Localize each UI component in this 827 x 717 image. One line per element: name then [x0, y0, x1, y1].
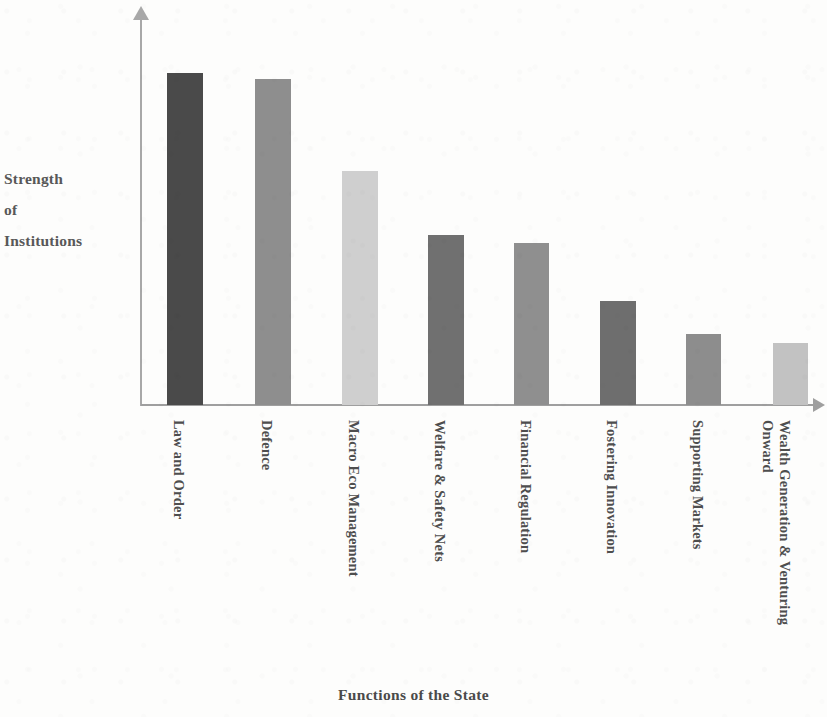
- y-axis-title-line-1: Strength: [4, 163, 129, 194]
- bar: [342, 171, 378, 405]
- category-label-line: Financial Regulation: [517, 420, 534, 553]
- bar: [600, 301, 636, 405]
- bar: [167, 73, 203, 405]
- category-label-line: Macro Eco Management: [345, 420, 362, 577]
- y-axis-title: Strength of Institutions: [4, 163, 129, 256]
- category-label: Supporting Markets: [689, 420, 706, 550]
- bar: [773, 343, 808, 405]
- category-label-line: Onward: [759, 420, 776, 625]
- y-axis-title-line-3: Institutions: [4, 225, 129, 256]
- category-label-line: Fostering Innovation: [603, 420, 620, 554]
- category-label: Law and Order: [170, 420, 187, 519]
- x-axis-arrow-icon: [813, 398, 825, 412]
- category-label: Financial Regulation: [517, 420, 534, 553]
- category-label: Defence: [258, 420, 275, 471]
- y-axis-line: [140, 18, 142, 406]
- y-axis-arrow-icon: [133, 6, 149, 20]
- category-label: Macro Eco Management: [345, 420, 362, 577]
- category-label-line: Defence: [258, 420, 275, 471]
- category-label-line: Welfare & Safety Nets: [431, 420, 448, 562]
- bar: [686, 334, 721, 405]
- category-label: Wealth Generation & VenturingOnward: [759, 420, 793, 625]
- bar: [428, 235, 464, 405]
- x-axis-title: Functions of the State: [0, 686, 827, 704]
- y-axis-title-line-2: of: [4, 194, 129, 225]
- category-label-line: Supporting Markets: [689, 420, 706, 550]
- category-label: Fostering Innovation: [603, 420, 620, 554]
- bar-chart: Strength of Institutions Law and OrderDe…: [0, 0, 827, 717]
- category-label-line: Law and Order: [170, 420, 187, 519]
- category-label: Welfare & Safety Nets: [431, 420, 448, 562]
- category-label-line: Wealth Generation & Venturing: [776, 420, 793, 625]
- bar: [514, 243, 549, 405]
- bar: [255, 79, 291, 405]
